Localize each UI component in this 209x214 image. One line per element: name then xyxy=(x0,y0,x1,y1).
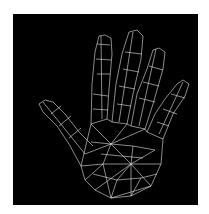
wireframe-hand-illustration xyxy=(13,14,198,205)
image-panel xyxy=(13,14,198,205)
